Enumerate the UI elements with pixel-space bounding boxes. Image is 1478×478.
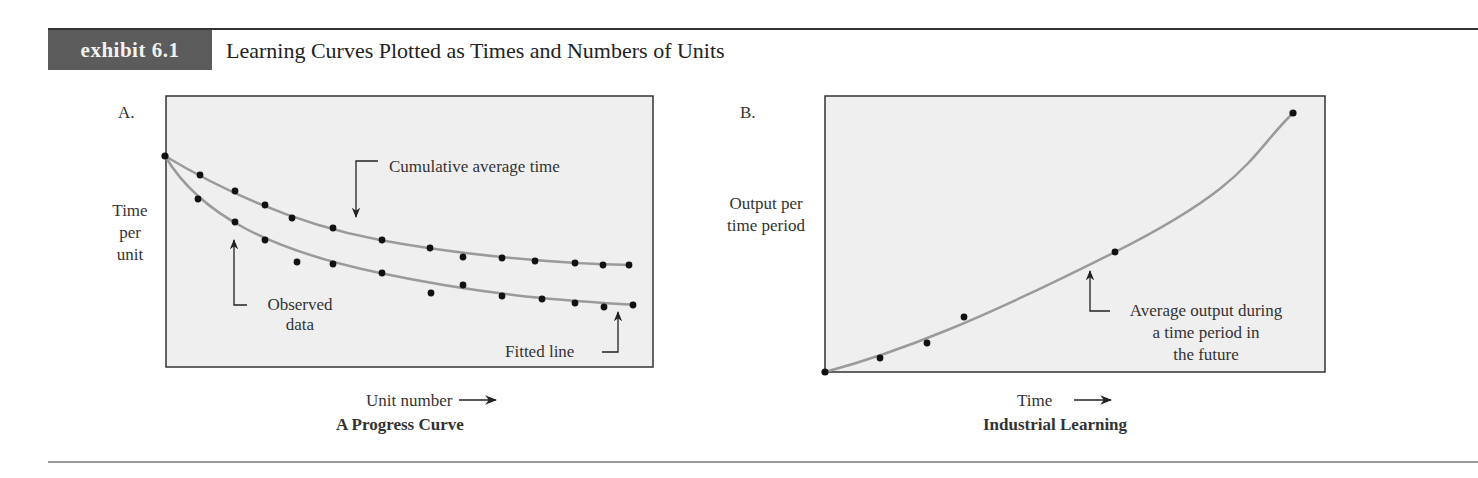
svg-text:Cumulative average time: Cumulative average time <box>389 157 560 176</box>
panel-a-caption: A Progress Curve <box>336 415 464 434</box>
svg-text:time period: time period <box>727 216 805 235</box>
panel-a-ylabel: Time per unit <box>112 201 147 264</box>
bottom-rule <box>48 461 1478 463</box>
svg-text:per: per <box>119 223 141 242</box>
panel-b-letter: B. <box>740 103 756 122</box>
svg-text:data: data <box>286 315 315 334</box>
panel-b-ylabel: Output per time period <box>727 194 805 235</box>
svg-text:a time period in: a time period in <box>1152 323 1260 342</box>
svg-text:Output per: Output per <box>729 194 803 213</box>
panel-a-letter: A. <box>118 103 135 122</box>
panel-a-xlabel: Unit number <box>366 391 453 410</box>
svg-text:Time: Time <box>112 201 147 220</box>
panel-b-caption: Industrial Learning <box>983 415 1128 434</box>
panel-b-xlabel: Time <box>1017 391 1052 410</box>
panel-b: B. Output per time period Average output… <box>727 96 1325 434</box>
panel-a: A. Time per unit <box>112 96 653 434</box>
svg-text:unit: unit <box>117 245 144 264</box>
svg-text:the future: the future <box>1173 345 1239 364</box>
svg-text:Average output during: Average output during <box>1130 301 1283 320</box>
svg-text:Fitted line: Fitted line <box>505 342 574 361</box>
svg-text:Observed: Observed <box>267 295 333 314</box>
panel-a-plot-area <box>166 96 653 367</box>
